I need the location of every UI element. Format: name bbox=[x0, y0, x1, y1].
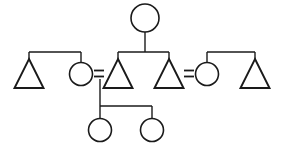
kinship-diagram-canvas bbox=[0, 0, 284, 157]
kinship-diagram bbox=[0, 0, 284, 157]
diagram-background bbox=[0, 0, 284, 157]
